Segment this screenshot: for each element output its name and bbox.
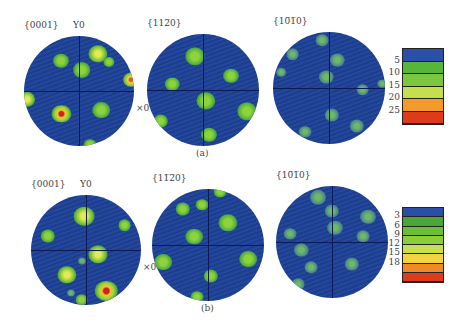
intensity-pole — [316, 35, 329, 47]
y-axis-line — [79, 36, 80, 146]
intensity-pole — [330, 54, 344, 67]
pole-figure-circle — [31, 195, 141, 305]
colorbar-segment — [403, 273, 443, 282]
colorbar-segment — [403, 87, 443, 100]
intensity-pole — [294, 244, 308, 257]
intensity-pole — [204, 269, 218, 282]
axis-x-label: ×0 — [136, 103, 149, 113]
subfigure-caption: (b) — [201, 303, 214, 313]
intensity-pole — [360, 210, 376, 224]
y-axis-line — [329, 32, 330, 144]
intensity-pole — [89, 246, 108, 263]
colorbar-segment — [403, 264, 443, 273]
intensity-pole — [344, 258, 358, 271]
intensity-pole — [325, 108, 339, 121]
intensity-pole — [196, 199, 209, 211]
pole-figure-label: {10̅1̅0} — [276, 170, 310, 180]
axis-y-label: Y0 — [80, 179, 92, 189]
intensity-pole — [277, 68, 287, 77]
colorbar-segment — [403, 62, 443, 75]
colorbar-segment — [403, 74, 443, 87]
intensity-pole — [299, 126, 312, 138]
pole-figure-label: {0001} — [24, 20, 58, 30]
colorbar-tick-label: 15 — [378, 80, 400, 90]
intensity-pole — [123, 73, 134, 87]
intensity-pole — [24, 92, 35, 106]
intensity-pole — [356, 84, 369, 96]
intensity-pole — [67, 289, 75, 296]
colorbar-segment — [403, 49, 443, 62]
intensity-pole — [176, 202, 190, 215]
intensity-pole — [214, 189, 227, 198]
colorbar-segment — [403, 254, 443, 263]
pole-figure-label: {11̅2̅0} — [152, 173, 186, 183]
intensity-pole — [185, 229, 203, 245]
subfigure-caption: (a) — [196, 148, 208, 158]
colorbar-segment — [403, 245, 443, 254]
intensity-pole — [95, 281, 117, 301]
pole-figure-label: {11⁠2̅0} — [147, 18, 181, 28]
colorbar-segment — [403, 208, 443, 217]
intensity-pole — [223, 69, 239, 83]
pole-figure-circle — [152, 189, 264, 301]
colorbar-segment — [403, 99, 443, 112]
axis-y-label: Y0 — [73, 20, 85, 30]
colorbar-segment — [403, 236, 443, 245]
intensity-pole — [190, 291, 203, 301]
colorbar-tick-label: 20 — [378, 92, 400, 102]
intensity-pole — [74, 207, 95, 226]
intensity-pole — [53, 54, 69, 68]
intensity-pole — [104, 57, 115, 67]
intensity-pole — [52, 105, 71, 122]
colorbar-tick-label: 25 — [378, 105, 400, 115]
colorbar — [402, 48, 444, 125]
intensity-pole — [165, 78, 179, 91]
pole-figure-label: {0001} — [31, 179, 65, 189]
intensity-pole — [237, 103, 256, 120]
colorbar-segment — [403, 217, 443, 226]
intensity-pole — [218, 214, 237, 231]
pole-figure-label: {10̅1̅0} — [273, 16, 307, 26]
intensity-pole — [118, 219, 131, 231]
intensity-pole — [92, 102, 110, 118]
intensity-pole — [284, 228, 297, 240]
colorbar — [402, 207, 444, 283]
pole-figure-circle — [147, 34, 259, 146]
intensity-pole — [57, 266, 76, 283]
intensity-pole — [73, 62, 91, 78]
pole-figure-circle — [273, 32, 385, 144]
intensity-pole — [40, 230, 54, 243]
intensity-pole — [350, 120, 364, 133]
colorbar-segment — [403, 227, 443, 236]
pole-figure-circle — [24, 36, 134, 146]
colorbar-tick-label: 18 — [378, 257, 400, 267]
intensity-pole — [286, 49, 299, 61]
y-axis-line — [203, 34, 204, 146]
intensity-pole — [292, 278, 305, 290]
colorbar-segment — [403, 112, 443, 125]
intensity-pole — [327, 221, 343, 235]
intensity-pole — [154, 254, 172, 270]
intensity-pole — [84, 139, 97, 146]
y-axis-line — [208, 189, 209, 301]
y-axis-line — [86, 195, 87, 305]
y-axis-line — [332, 186, 333, 298]
colorbar-tick-label: 10 — [378, 67, 400, 77]
intensity-pole — [186, 48, 205, 65]
intensity-pole — [310, 190, 326, 204]
pole-figure-circle — [276, 186, 388, 298]
intensity-pole — [304, 261, 317, 273]
intensity-pole — [356, 231, 369, 243]
intensity-pole — [319, 70, 333, 83]
intensity-pole — [154, 114, 168, 127]
intensity-pole — [196, 93, 215, 110]
intensity-pole — [78, 257, 86, 264]
intensity-pole — [240, 251, 258, 267]
colorbar-tick-label: 5 — [378, 55, 400, 65]
